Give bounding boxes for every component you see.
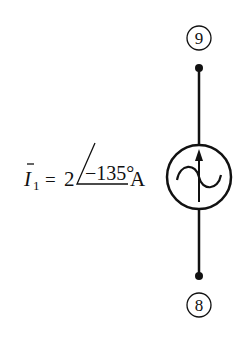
- node-9: 9: [187, 26, 211, 50]
- node-9-label: 9: [195, 29, 204, 48]
- unit: A: [130, 167, 146, 191]
- equals-sign: =: [45, 169, 56, 190]
- arrow-head-icon: [195, 149, 203, 161]
- angle-value: −135°: [85, 162, 134, 184]
- bottom-terminal-dot: [195, 272, 203, 280]
- node-8-label: 8: [195, 296, 204, 315]
- current-symbol: I: [23, 167, 32, 191]
- node-8: 8: [187, 293, 211, 317]
- magnitude: 2: [64, 167, 75, 191]
- source-phasor-label: I 1 = 2 −135° A: [23, 143, 146, 193]
- current-subscript: 1: [33, 178, 40, 193]
- ac-current-source: [167, 145, 231, 209]
- circuit-diagram: 9 8 I 1 = 2 −135° A: [0, 0, 245, 340]
